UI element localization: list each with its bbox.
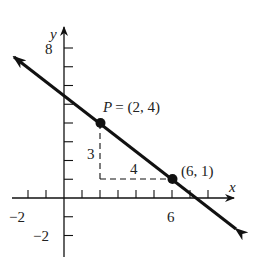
point-p-label: P= (2, 4) [102, 99, 160, 116]
y-ticks [64, 48, 73, 236]
y-tick-label-8: 8 [45, 41, 53, 57]
point-6-1-label: (6, 1) [181, 163, 214, 180]
point-p [96, 118, 106, 128]
y-axis-label: y [48, 26, 57, 42]
point-6-1 [168, 174, 178, 184]
x-tick-label-neg2: −2 [9, 209, 25, 225]
run-label: 4 [130, 161, 138, 177]
graph-line [14, 57, 236, 229]
x-ticks [28, 190, 208, 198]
y-tick-label-neg2: −2 [33, 228, 49, 244]
coordinate-plane: y x 8 −2 −2 6 P= (2, 4) (6, 1) 3 4 [0, 0, 254, 273]
x-axis-label: x [228, 179, 236, 195]
rise-label: 3 [87, 146, 95, 162]
x-tick-label-6: 6 [167, 209, 175, 225]
